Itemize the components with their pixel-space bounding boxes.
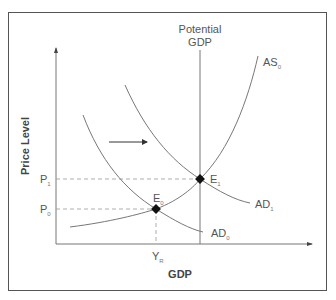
y-axis-title: Price Level <box>19 117 31 175</box>
x-axis-title: GDP <box>168 268 192 280</box>
ad-as-diagram: Potential GDP AS0 AD1 AD0 E1 E0 P1 P0 YR… <box>0 0 336 300</box>
e1-label: E1 <box>210 173 221 187</box>
as0-label: AS0 <box>263 56 282 70</box>
potential-label-line1: Potential <box>179 23 222 35</box>
ad1-label: AD1 <box>255 198 274 212</box>
ad1-curve <box>125 85 250 203</box>
potential-label-line2: GDP <box>188 36 212 48</box>
p1-tick-label: P1 <box>40 173 51 187</box>
p0-tick-label: P0 <box>40 203 51 217</box>
yr-tick-label: YR <box>152 250 164 264</box>
ad0-curve <box>83 115 203 232</box>
e0-label: E0 <box>153 192 164 206</box>
ad0-label: AD0 <box>211 227 230 241</box>
as0-curve <box>70 56 258 227</box>
